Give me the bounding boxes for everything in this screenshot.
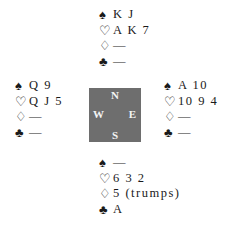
west-hearts-row: ♡Q J 5 xyxy=(15,94,63,110)
south-hand: ♠— ♡6 3 2 ♢5 (trumps) ♣A xyxy=(99,155,180,217)
club-icon: ♣ xyxy=(15,125,29,141)
north-hand: ♠K J ♡A K 7 ♢— ♣— xyxy=(99,7,150,69)
club-icon: ♣ xyxy=(164,125,178,141)
east-hand: ♠A 10 ♡10 9 4 ♢— ♣— xyxy=(164,78,218,140)
north-diamonds: — xyxy=(113,38,127,54)
south-clubs-row: ♣A xyxy=(99,202,180,218)
east-spades: A 10 xyxy=(178,78,208,94)
diamond-icon: ♢ xyxy=(99,38,113,54)
compass-south: S xyxy=(112,129,118,141)
west-diamonds-row: ♢— xyxy=(15,109,63,125)
south-spades-row: ♠— xyxy=(99,155,180,171)
east-clubs: — xyxy=(178,125,192,141)
south-diamonds-row: ♢5 (trumps) xyxy=(99,186,180,202)
east-hearts: 10 9 4 xyxy=(178,94,218,110)
club-icon: ♣ xyxy=(99,202,113,218)
west-clubs: — xyxy=(29,125,43,141)
diamond-icon: ♢ xyxy=(15,109,29,125)
west-spades-row: ♠Q 9 xyxy=(15,78,63,94)
north-clubs-row: ♣— xyxy=(99,54,150,70)
north-diamonds-row: ♢— xyxy=(99,38,150,54)
heart-icon: ♡ xyxy=(99,171,113,187)
north-spades: K J xyxy=(113,7,135,23)
north-spades-row: ♠K J xyxy=(99,7,150,23)
west-clubs-row: ♣— xyxy=(15,125,63,141)
south-diamonds: 5 (trumps) xyxy=(113,186,180,202)
spade-icon: ♠ xyxy=(15,78,29,94)
east-clubs-row: ♣— xyxy=(164,125,218,141)
west-hearts: Q J 5 xyxy=(29,94,63,110)
south-clubs: A xyxy=(113,202,124,218)
spade-icon: ♠ xyxy=(99,7,113,23)
club-icon: ♣ xyxy=(99,54,113,70)
south-hearts-row: ♡6 3 2 xyxy=(99,171,180,187)
spade-icon: ♠ xyxy=(164,78,178,94)
heart-icon: ♡ xyxy=(164,94,178,110)
east-hearts-row: ♡10 9 4 xyxy=(164,94,218,110)
heart-icon: ♡ xyxy=(99,23,113,39)
east-diamonds-row: ♢— xyxy=(164,109,218,125)
spade-icon: ♠ xyxy=(99,155,113,171)
west-spades: Q 9 xyxy=(29,78,52,94)
north-hearts: A K 7 xyxy=(113,23,150,39)
compass-east: E xyxy=(129,108,136,120)
west-hand: ♠Q 9 ♡Q J 5 ♢— ♣— xyxy=(15,78,63,140)
south-hearts: 6 3 2 xyxy=(113,171,146,187)
east-diamonds: — xyxy=(178,109,192,125)
north-clubs: — xyxy=(113,54,127,70)
heart-icon: ♡ xyxy=(15,94,29,110)
compass-box: N W E S xyxy=(89,88,141,142)
north-hearts-row: ♡A K 7 xyxy=(99,23,150,39)
compass-west: W xyxy=(93,108,104,120)
west-diamonds: — xyxy=(29,109,43,125)
diamond-icon: ♢ xyxy=(164,109,178,125)
diamond-icon: ♢ xyxy=(99,186,113,202)
compass-north: N xyxy=(111,89,119,101)
east-spades-row: ♠A 10 xyxy=(164,78,218,94)
south-spades: — xyxy=(113,155,127,171)
